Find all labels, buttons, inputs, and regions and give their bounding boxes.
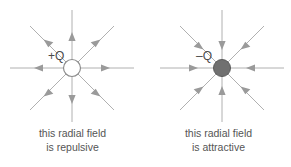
caption-line-2: is repulsive: [0, 140, 145, 154]
diagram-repulsive: +Q: [0, 0, 145, 125]
diagram-attractive: –Q: [146, 0, 291, 125]
caption-repulsive: this radial field is repulsive: [0, 126, 145, 154]
charge-circle-positive: [64, 60, 81, 77]
panel-attractive: –Q this radial field is attractive: [146, 0, 291, 167]
radial-field-figure: +Q this radial field is repulsive: [0, 0, 291, 167]
charge-label-negative: –Q: [196, 49, 212, 63]
caption-line-1: this radial field: [146, 126, 291, 140]
panel-repulsive: +Q this radial field is repulsive: [0, 0, 145, 167]
charge-circle-negative: [214, 60, 231, 77]
caption-attractive: this radial field is attractive: [146, 126, 291, 154]
charge-label-positive: +Q: [48, 49, 64, 63]
caption-line-2: is attractive: [146, 140, 291, 154]
caption-line-1: this radial field: [0, 126, 145, 140]
